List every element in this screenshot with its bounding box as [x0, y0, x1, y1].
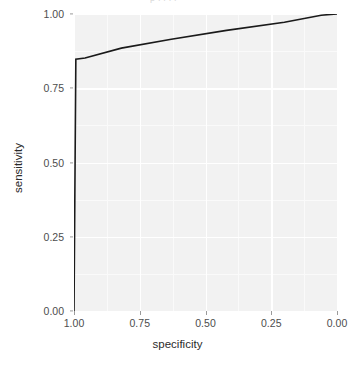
x-tick-mark	[140, 311, 141, 315]
y-axis-title: sensitivity	[12, 108, 24, 228]
y-tick-mark	[70, 236, 74, 237]
y-tick-mark	[70, 310, 74, 311]
y-tick-label: 0.25	[8, 231, 64, 243]
x-tick-label: 1.00	[44, 317, 104, 329]
x-tick-mark	[271, 311, 272, 315]
x-tick-mark	[337, 311, 338, 315]
plot-panel	[74, 14, 337, 311]
y-tick-label: 1.00	[8, 8, 64, 20]
clipped-title-text: p . . . .	[150, 0, 355, 5]
y-tick-mark	[70, 13, 74, 14]
y-tick-mark	[70, 162, 74, 163]
y-tick-label: 0.75	[8, 82, 64, 94]
roc-curve-line	[74, 14, 337, 311]
y-tick-mark	[70, 88, 74, 89]
roc-curve-svg	[74, 14, 337, 311]
x-axis-title: specificity	[0, 338, 355, 350]
x-tick-label: 0.50	[176, 317, 236, 329]
x-tick-mark	[74, 311, 75, 315]
x-tick-label: 0.75	[110, 317, 170, 329]
x-tick-mark	[206, 311, 207, 315]
y-tick-label: 0.00	[8, 305, 64, 317]
roc-chart: p . . . . 0.000.250.500.751.00 sensitivi…	[0, 0, 355, 368]
x-tick-label: 0.25	[241, 317, 301, 329]
x-tick-label: 0.00	[307, 317, 355, 329]
